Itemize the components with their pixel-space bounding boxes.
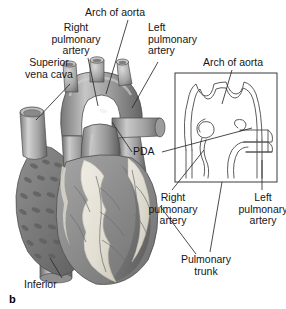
label-pda: PDA (133, 146, 155, 158)
label-inferior-vena-cava: Inferior (24, 279, 57, 291)
label-pulmonary-trunk: Pulmonary trunk (166, 254, 246, 277)
label-right-pulmonary-artery: Right pulmonary artery (30, 22, 122, 57)
inset-label-arch-of-aorta: Arch of aorta (203, 57, 263, 69)
inset-label-left-pulmonary-artery: Left pulmonary artery (228, 192, 286, 227)
superior-vena-cava (20, 107, 47, 160)
inset-label-right-pulmonary-artery: Right pulmonary artery (138, 192, 208, 227)
panel-letter: b (9, 293, 16, 305)
label-superior-vena-cava: Superior vena cava (4, 57, 94, 80)
label-left-pulmonary-artery: Left pulmonary artery (148, 22, 214, 57)
label-arch-of-aorta: Arch of aorta (85, 7, 175, 19)
right-pulmonary-artery-vessel (112, 118, 165, 138)
